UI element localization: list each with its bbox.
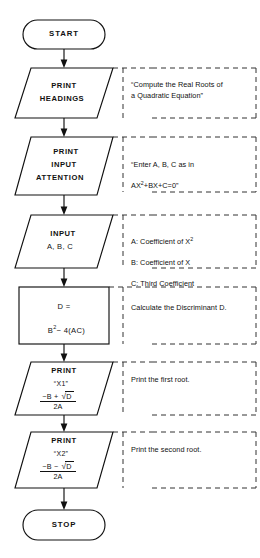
connector-x2-to-stop <box>61 488 68 510</box>
note-input-line1-exponent: 2 <box>190 235 193 241</box>
x1-numerator-prefix: −B + <box>42 392 58 401</box>
node-print-headings-label-line1: PRINT <box>14 82 114 91</box>
node-compute-discriminant-label-line2: B2− 4(AC) <box>19 318 109 336</box>
node-print-x2-label-line1: PRINT <box>14 437 114 446</box>
x2-denominator: 2A <box>40 472 75 481</box>
x2-numerator-prefix: −B − <box>42 462 58 471</box>
connector-input-to-discriminant <box>61 268 68 287</box>
node-print-x2-label-line2: “X2” <box>11 450 111 458</box>
note-print-x1: Print the first root. <box>131 375 257 386</box>
x1-radical: √D <box>61 391 74 401</box>
note-input-abc: A: Coefficient of X2 B: Coefficient of X… <box>131 226 257 289</box>
note-print-x2: Print the second root. <box>131 445 257 456</box>
node-print-x1-formula: −B + √D 2A <box>8 391 108 411</box>
note-print-input-attention: “Enter A, B, C as in AX2+BX+C=0” <box>131 149 257 191</box>
node-print-input-attention-label-line2: INPUT <box>14 161 114 170</box>
connector-x1-to-x2 <box>61 415 68 432</box>
note-input-line3: C: Third Coefficient <box>131 279 194 288</box>
node-input-abc-label-line2: A, B, C <box>10 243 110 252</box>
note-input-line1-pre: A: Coefficient of X <box>131 237 190 246</box>
note-attention-line2-post: +BX+C=0” <box>144 181 179 190</box>
connector-headings-to-attention <box>61 118 68 137</box>
node-compute-discriminant-label-line1: D = <box>19 303 109 312</box>
node-input-abc-label-line1: INPUT <box>13 230 113 239</box>
node-print-input-attention-label-line1: PRINT <box>16 148 116 157</box>
connector-discriminant-to-x1 <box>61 344 68 362</box>
note-print-headings: “Compute the Real Roots of a Quadratic E… <box>131 80 257 101</box>
x2-radicand: D <box>65 461 73 471</box>
discriminant-rest: − 4(AC) <box>57 326 85 335</box>
x2-radical: √D <box>61 461 74 471</box>
note-frame-print-x2 <box>113 432 256 488</box>
note-frame-print-x1 <box>113 362 256 415</box>
node-start-label: START <box>23 29 105 38</box>
note-compute-discriminant: Calculate the Discriminant D. <box>131 303 257 314</box>
note-input-line2: B: Coefficient of X <box>131 258 190 267</box>
x1-radicand: D <box>65 391 73 401</box>
note-attention-line1: “Enter A, B, C as in <box>131 160 194 169</box>
note-attention-line2-pre: AX <box>131 181 141 190</box>
node-print-x1-label-line2: “X1” <box>11 380 111 388</box>
note-frame-compute-discriminant <box>109 287 256 344</box>
node-print-headings-shape[interactable] <box>15 68 113 118</box>
node-print-headings-label-line2: HEADINGS <box>12 95 112 104</box>
node-print-input-attention-label-line3: ATTENTION <box>10 174 110 183</box>
x1-denominator: 2A <box>40 402 75 411</box>
connector-start-to-headings <box>61 49 68 68</box>
node-print-x2-formula: −B − √D 2A <box>8 461 108 481</box>
connector-attention-to-input <box>61 195 68 215</box>
node-print-x1-label-line1: PRINT <box>14 367 114 376</box>
node-stop-label: STOP <box>23 520 105 529</box>
